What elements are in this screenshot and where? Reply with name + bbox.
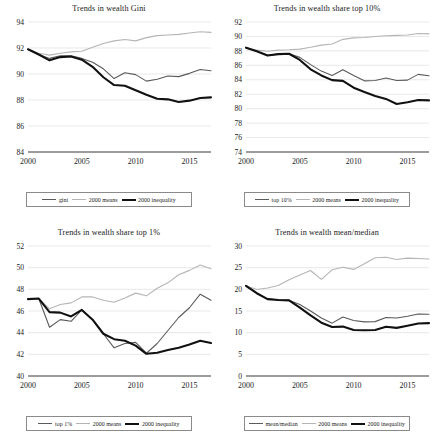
legend-label-inequality: 2000 inequality: [138, 197, 176, 203]
y-axis-tick-label: 40: [16, 372, 24, 381]
y-axis-tick-label: 88: [234, 47, 242, 56]
figure-root: Trends in wealth Gini 848688909294200020…: [0, 0, 436, 448]
series-line-mean-median: [246, 286, 429, 323]
legend-item-series: mean/median: [249, 421, 298, 427]
legend-line-icon-series: [38, 423, 52, 424]
series-line-top-10-: [246, 48, 429, 81]
line-chart-svg: 8486889092942000200520102015: [0, 16, 218, 181]
plot-area: 8486889092942000200520102015: [0, 16, 218, 181]
x-axis-tick-label: 2005: [292, 157, 308, 166]
y-axis-tick-label: 10: [234, 328, 242, 337]
y-axis-tick-label: 76: [234, 133, 242, 142]
y-axis-tick-label: 86: [234, 61, 242, 70]
legend-label-means: 2000 means: [93, 421, 122, 427]
x-axis-tick-label: 2015: [400, 381, 416, 390]
plot-area: 404244464850522000200520102015: [0, 240, 218, 405]
legend-label-series: mean/median: [265, 421, 297, 427]
legend-item-means: 2000 means: [296, 197, 341, 203]
chart-panel-wealth-gini: Trends in wealth Gini 848688909294200020…: [0, 0, 218, 224]
legend-label-series: gini: [59, 197, 68, 203]
x-axis-tick-label: 2005: [292, 381, 308, 390]
chart-legend: mean/median 2000 means 2000 inequality: [244, 416, 410, 431]
y-axis-tick-label: 15: [234, 307, 242, 316]
y-axis-tick-label: 44: [16, 328, 24, 337]
line-chart-svg: 0510152025302000200520102015: [218, 240, 436, 405]
legend-label-means: 2000 means: [312, 197, 341, 203]
legend-item-inequality: 2000 inequality: [122, 197, 176, 203]
y-axis-tick-label: 50: [16, 263, 24, 272]
legend-line-icon-inequality: [345, 199, 359, 201]
y-axis-tick-label: 90: [234, 32, 242, 41]
x-axis-tick-label: 2010: [128, 157, 144, 166]
y-axis-tick-label: 90: [16, 70, 24, 79]
legend-label-inequality: 2000 inequality: [142, 421, 180, 427]
x-axis-tick-label: 2010: [346, 157, 362, 166]
y-axis-tick-label: 30: [234, 242, 242, 251]
series-line-2000-inequality: [246, 48, 429, 104]
plot-area: 747678808284868890922000200520102015: [218, 16, 436, 181]
x-axis-tick-label: 2005: [74, 157, 90, 166]
legend-line-icon-series: [249, 423, 263, 424]
legend-item-series: gini: [42, 197, 68, 203]
chart-legend: gini 2000 means 2000 inequality: [26, 192, 192, 207]
series-line-2000-inequality: [246, 286, 429, 330]
y-axis-tick-label: 0: [238, 372, 242, 381]
legend-line-icon-means: [302, 423, 316, 424]
y-axis-tick-label: 25: [234, 263, 242, 272]
plot-area: 0510152025302000200520102015: [218, 240, 436, 405]
x-axis-tick-label: 2000: [20, 157, 36, 166]
legend-line-icon-inequality: [122, 199, 136, 201]
legend-item-series: top 1%: [38, 421, 72, 427]
line-chart-svg: 404244464850522000200520102015: [0, 240, 218, 405]
y-axis-tick-label: 78: [234, 119, 242, 128]
x-axis-tick-label: 2010: [128, 381, 144, 390]
y-axis-tick-label: 92: [234, 18, 242, 27]
legend-item-inequality: 2000 inequality: [345, 197, 399, 203]
x-axis-tick-label: 2000: [238, 381, 254, 390]
chart-title: Trends in wealth Gini: [0, 4, 218, 13]
y-axis-tick-label: 52: [16, 242, 24, 251]
legend-line-icon-means: [296, 199, 310, 200]
legend-item-inequality: 2000 inequality: [351, 421, 405, 427]
y-axis-tick-label: 20: [234, 285, 242, 294]
chart-title: Trends in wealth share top 10%: [218, 4, 436, 13]
legend-item-means: 2000 means: [72, 197, 117, 203]
series-line-2000-means: [28, 32, 211, 55]
legend-label-series: top 1%: [55, 421, 72, 427]
y-axis-tick-label: 5: [238, 350, 242, 359]
legend-line-icon-inequality: [125, 423, 139, 425]
series-line-2000-means: [28, 265, 211, 309]
x-axis-tick-label: 2015: [182, 157, 198, 166]
x-axis-tick-label: 2000: [20, 381, 36, 390]
chart-legend: top 1% 2000 means 2000 inequality: [26, 416, 192, 431]
y-axis-tick-label: 42: [16, 350, 24, 359]
y-axis-tick-label: 94: [16, 18, 24, 27]
x-axis-tick-label: 2010: [346, 381, 362, 390]
line-chart-svg: 747678808284868890922000200520102015: [218, 16, 436, 181]
y-axis-tick-label: 74: [234, 148, 242, 157]
series-line-top-1-: [28, 294, 211, 353]
y-axis-tick-label: 84: [16, 148, 24, 157]
chart-panel-wealth-mean-median: Trends in wealth mean/median 05101520253…: [218, 224, 436, 448]
legend-label-means: 2000 means: [89, 197, 118, 203]
chart-title: Trends in wealth mean/median: [218, 228, 436, 237]
legend-label-series: top 10%: [271, 197, 291, 203]
legend-label-means: 2000 means: [318, 421, 347, 427]
y-axis-tick-label: 46: [16, 307, 24, 316]
chart-panel-wealth-share-top10: Trends in wealth share top 10% 747678808…: [218, 0, 436, 224]
legend-item-means: 2000 means: [302, 421, 347, 427]
x-axis-tick-label: 2015: [182, 381, 198, 390]
y-axis-tick-label: 88: [16, 96, 24, 105]
legend-item-inequality: 2000 inequality: [125, 421, 179, 427]
series-line-2000-means: [246, 257, 429, 289]
chart-panel-wealth-share-top1: Trends in wealth share top 1% 4042444648…: [0, 224, 218, 448]
y-axis-tick-label: 48: [16, 285, 24, 294]
y-axis-tick-label: 86: [16, 122, 24, 131]
chart-title: Trends in wealth share top 1%: [0, 228, 218, 237]
x-axis-tick-label: 2015: [400, 157, 416, 166]
legend-label-inequality: 2000 inequality: [368, 421, 406, 427]
y-axis-tick-label: 84: [234, 75, 242, 84]
legend-item-means: 2000 means: [76, 421, 121, 427]
legend-line-icon-series: [42, 199, 56, 200]
y-axis-tick-label: 80: [234, 104, 242, 113]
